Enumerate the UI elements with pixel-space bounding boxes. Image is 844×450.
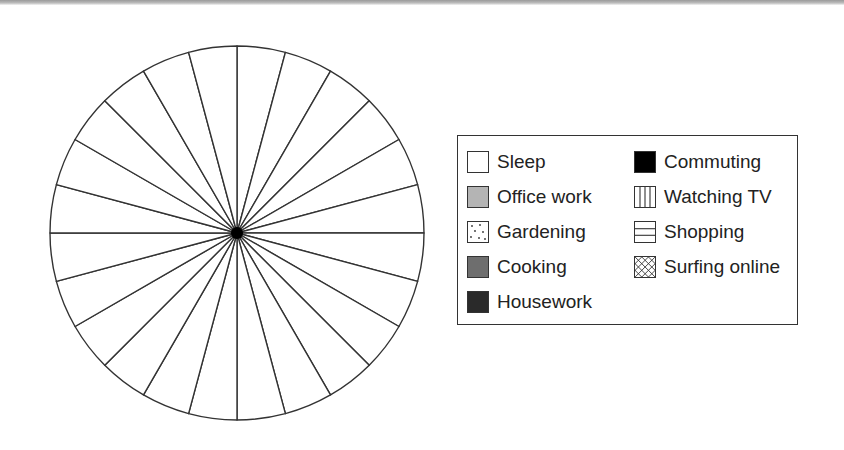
legend: Sleep Office work Gardening Cooking Hous…: [457, 135, 798, 325]
legend-item-cooking: Cooking: [467, 255, 567, 279]
cooking-swatch-icon: [467, 256, 489, 278]
shopping-swatch-icon: [634, 221, 656, 243]
surfing-online-swatch-icon: [634, 256, 656, 278]
legend-item-watching-tv: Watching TV: [634, 185, 772, 209]
legend-item-sleep: Sleep: [467, 150, 546, 174]
legend-label: Sleep: [497, 150, 546, 174]
housework-swatch-icon: [467, 291, 489, 313]
legend-label: Surfing online: [664, 255, 780, 279]
legend-item-gardening: Gardening: [467, 220, 586, 244]
legend-item-commuting: Commuting: [634, 150, 761, 174]
legend-item-shopping: Shopping: [634, 220, 744, 244]
office-work-swatch-icon: [467, 186, 489, 208]
legend-item-surfing-online: Surfing online: [634, 255, 780, 279]
legend-label: Housework: [497, 290, 592, 314]
legend-item-housework: Housework: [467, 290, 592, 314]
commuting-swatch-icon: [634, 151, 656, 173]
legend-label: Gardening: [497, 220, 586, 244]
legend-item-office-work: Office work: [467, 185, 592, 209]
legend-label: Shopping: [664, 220, 744, 244]
pie-center-dot: [231, 227, 243, 239]
legend-label: Watching TV: [664, 185, 772, 209]
legend-label: Office work: [497, 185, 592, 209]
sleep-swatch-icon: [467, 151, 489, 173]
legend-label: Commuting: [664, 150, 761, 174]
gardening-swatch-icon: [467, 221, 489, 243]
watching-tv-swatch-icon: [634, 186, 656, 208]
legend-label: Cooking: [497, 255, 567, 279]
